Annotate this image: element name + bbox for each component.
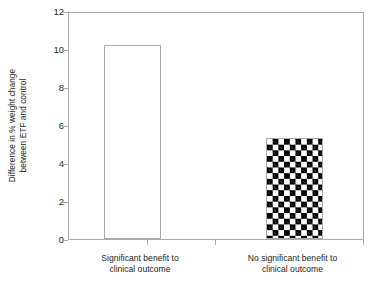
y-tick-label-4: 4 [22,159,64,169]
y-tick-mark-0 [62,240,68,241]
bar-chart: Difference in % weight change between ET… [0,0,380,282]
y-tick-label-6: 6 [22,121,64,131]
category-label-1-line-1: Significant benefit to [60,253,220,264]
x-tick-mark-1 [147,240,148,245]
category-label-2-line-1: No significant benefit to [210,253,375,264]
y-tick-label-0: 0 [22,235,64,245]
y-tick-label-10: 10 [22,45,64,55]
category-label-1-line-2: clinical outcome [60,264,220,275]
x-tick-mark-2 [215,240,216,245]
y-tick-label-2: 2 [22,197,64,207]
plot-area [68,12,364,240]
category-label-no-significant-benefit: No significant benefit to clinical outco… [210,253,375,274]
bar-no-significant-benefit [266,138,323,239]
x-tick-mark-3 [363,240,364,245]
category-label-significant-benefit: Significant benefit to clinical outcome [60,253,220,274]
y-tick-label-12: 12 [22,7,64,17]
category-label-2-line-2: clinical outcome [210,264,375,275]
y-axis-title-line-1: Difference in % weight change [8,68,19,181]
bar-significant-benefit [104,45,161,239]
y-tick-label-8: 8 [22,83,64,93]
